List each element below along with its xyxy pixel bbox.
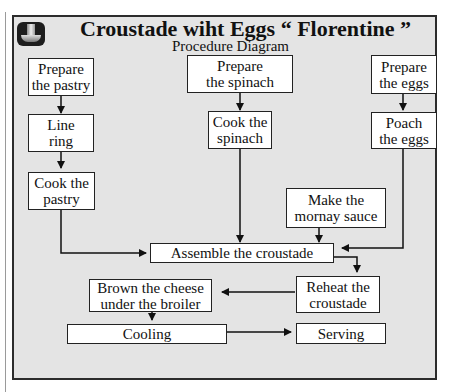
node-assemble: Assemble the croustade [150, 243, 334, 263]
node-serving: Serving [296, 323, 386, 344]
node-prepare-spinach: Prepare the spinach [187, 55, 293, 93]
node-prepare-pastry: Prepare the pastry [28, 58, 94, 96]
node-cook-spinach: Cook the spinach [208, 111, 272, 149]
node-brown-cheese: Brown the cheese under the broiler [89, 279, 212, 312]
node-prepare-eggs: Prepare the eggs [371, 55, 437, 94]
node-line-ring: Line ring [28, 114, 94, 152]
node-poach-eggs: Poach the eggs [371, 112, 437, 149]
node-mornay-sauce: Make the mornay sauce [286, 188, 386, 228]
node-cooling: Cooling [67, 324, 227, 344]
node-cook-pastry: Cook the pastry [28, 172, 95, 210]
node-reheat: Reheat the croustade [296, 276, 380, 313]
